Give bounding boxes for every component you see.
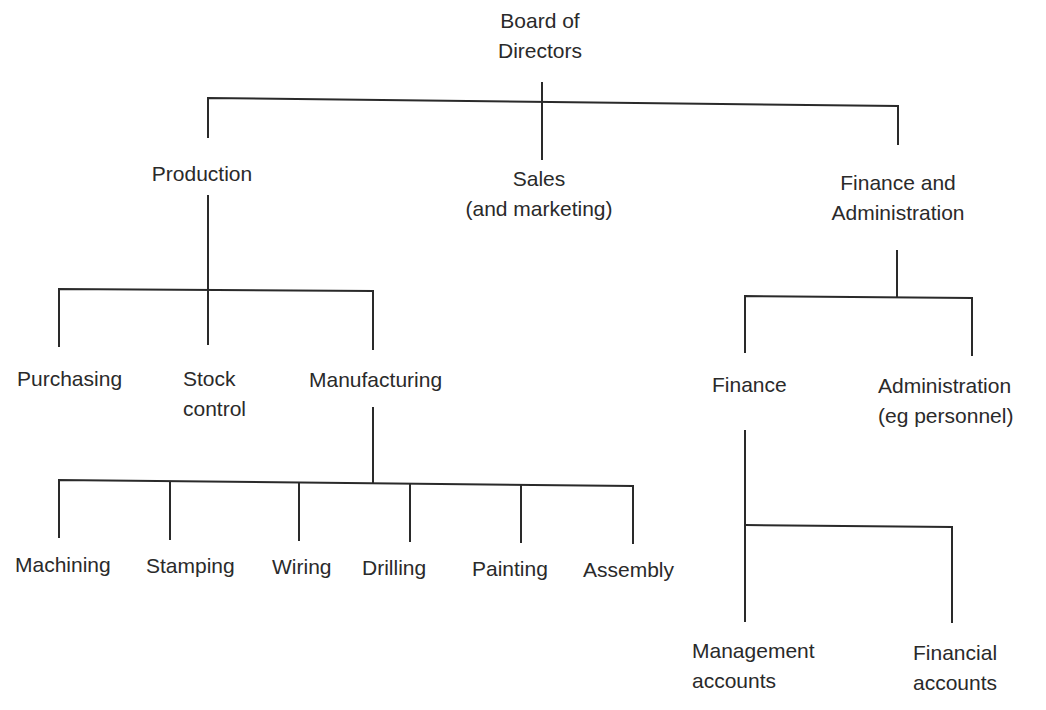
node-drilling: Drilling [362,553,426,583]
node-assembly: Assembly [583,555,674,585]
connector-lines [0,0,1046,710]
node-finance-and-administration: Finance and Administration [831,168,964,228]
node-machining: Machining [15,550,111,580]
node-purchasing: Purchasing [17,364,122,394]
node-financial-accounts: Financial accounts [913,638,997,698]
org-chart: Board of Directors Production Sales (and… [0,0,1046,710]
node-painting: Painting [472,554,548,584]
node-stock-control: Stock control [183,364,246,424]
node-manufacturing: Manufacturing [309,365,442,395]
node-wiring: Wiring [272,552,332,582]
node-administration: Administration (eg personnel) [878,371,1013,431]
node-board-of-directors: Board of Directors [498,6,582,66]
node-finance: Finance [712,370,787,400]
node-production: Production [152,159,252,189]
node-sales: Sales (and marketing) [465,164,612,224]
node-stamping: Stamping [146,551,235,581]
node-management-accounts: Management accounts [692,636,815,696]
